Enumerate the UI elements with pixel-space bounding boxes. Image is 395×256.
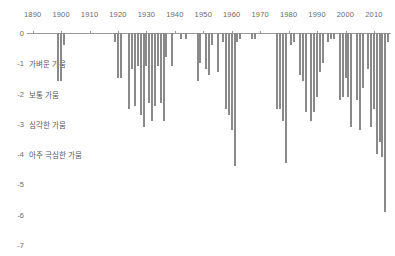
chart-bar bbox=[171, 33, 173, 66]
chart-bar bbox=[234, 33, 236, 166]
chart-bar bbox=[290, 33, 292, 45]
chart-bar bbox=[231, 33, 233, 130]
chart-bar bbox=[140, 33, 142, 115]
chart-bar bbox=[276, 33, 278, 109]
chart-bar bbox=[57, 33, 59, 81]
chart-bar bbox=[359, 33, 361, 130]
chart-bar bbox=[114, 33, 116, 42]
chart-bar bbox=[376, 33, 378, 154]
chart-bar bbox=[319, 33, 321, 72]
chart-bar bbox=[60, 33, 62, 81]
drought-index-chart: 0-1-2-3-4-5-6-7 가벼운 가뭄보통 가뭄심각한 가뭄아주 극심한 … bbox=[0, 0, 395, 256]
chart-bar bbox=[310, 33, 312, 121]
chart-bar bbox=[322, 33, 324, 63]
chart-bar bbox=[379, 33, 381, 142]
chart-bar bbox=[239, 33, 241, 39]
chart-bar bbox=[228, 33, 230, 115]
chart-bar bbox=[205, 33, 207, 69]
chart-bar bbox=[356, 33, 358, 100]
chart-bar bbox=[217, 33, 219, 72]
chart-bar bbox=[345, 33, 347, 78]
chart-bar bbox=[197, 33, 199, 81]
chart-bar bbox=[222, 33, 224, 42]
chart-bar bbox=[327, 33, 329, 42]
chart-bar bbox=[342, 33, 344, 97]
chart-bar bbox=[185, 33, 187, 39]
chart-bar bbox=[120, 33, 122, 78]
chart-bar bbox=[151, 33, 153, 121]
chart-bar bbox=[333, 33, 335, 39]
chart-bar bbox=[208, 33, 210, 75]
chart-bar bbox=[148, 33, 150, 103]
chart-bar bbox=[302, 33, 304, 81]
chart-bar bbox=[367, 33, 369, 69]
chart-bar bbox=[180, 33, 182, 39]
chart-bar bbox=[279, 33, 281, 109]
chart-bar bbox=[384, 33, 386, 212]
chart-bar bbox=[350, 33, 352, 127]
chart-bar bbox=[131, 33, 133, 69]
chart-bar bbox=[293, 33, 295, 42]
chart-bar bbox=[63, 33, 65, 45]
chart-bar bbox=[254, 33, 256, 39]
chart-bar bbox=[339, 33, 341, 100]
chart-bar bbox=[236, 33, 238, 42]
chart-bar bbox=[128, 33, 130, 109]
chart-bar bbox=[211, 33, 213, 45]
chart-bar bbox=[143, 33, 145, 127]
chart-bar bbox=[251, 33, 253, 39]
chart-bar bbox=[305, 33, 307, 112]
chart-bar bbox=[282, 33, 284, 121]
chart-bar bbox=[137, 33, 139, 66]
chart-bar bbox=[381, 33, 383, 157]
chart-bar bbox=[225, 33, 227, 109]
chart-bar bbox=[165, 33, 167, 57]
plot-area bbox=[0, 0, 395, 256]
chart-bar bbox=[160, 33, 162, 103]
chart-bar bbox=[299, 33, 301, 75]
chart-bar bbox=[362, 33, 364, 88]
chart-bar bbox=[313, 33, 315, 112]
chart-bar bbox=[370, 33, 372, 127]
chart-bar bbox=[134, 33, 136, 106]
chart-bar bbox=[347, 33, 349, 97]
chart-bar bbox=[387, 33, 389, 42]
chart-bar bbox=[285, 33, 287, 163]
chart-bar bbox=[145, 33, 147, 66]
chart-bar bbox=[316, 33, 318, 97]
chart-bar bbox=[117, 33, 119, 78]
chart-bar bbox=[373, 33, 375, 109]
chart-bar bbox=[330, 33, 332, 39]
chart-bar bbox=[154, 33, 156, 106]
chart-bar bbox=[199, 33, 201, 63]
chart-bar bbox=[157, 33, 159, 66]
chart-bar bbox=[163, 33, 165, 121]
